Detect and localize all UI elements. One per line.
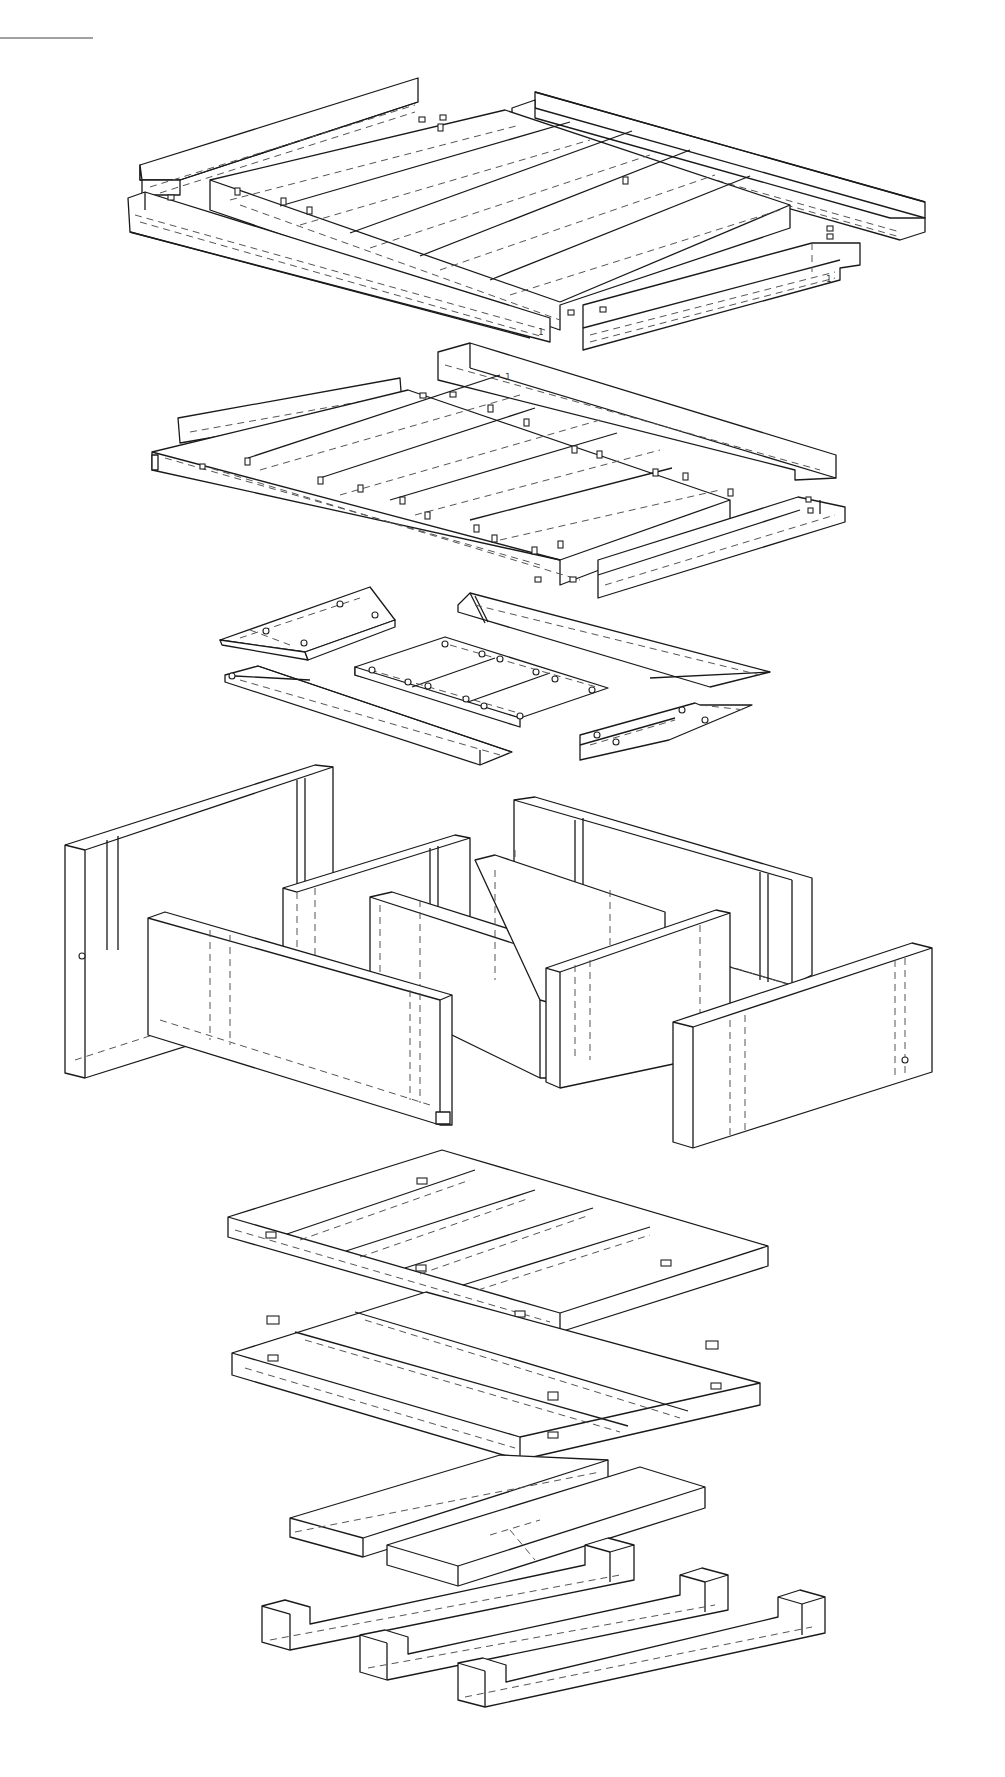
part-mark: 1: [505, 372, 510, 382]
roof-assembly: 1 1: [128, 78, 925, 350]
part-mark: 1: [538, 327, 543, 337]
loose-connector: [706, 1341, 718, 1349]
loose-connector: [267, 1316, 279, 1324]
floor-assembly: [228, 1150, 768, 1460]
floor-lower-panel: [232, 1292, 760, 1460]
bracket-left-upper: [220, 587, 395, 660]
floor-upper-panel: [228, 1150, 768, 1332]
base-assembly: [262, 1455, 825, 1707]
upper-frame-assembly: 1: [152, 343, 845, 598]
shelf-parts: [220, 587, 770, 765]
part-mark: 1: [826, 274, 831, 284]
drawing-canvas: 1 1: [0, 0, 1005, 1777]
bracket-right-lower: [580, 703, 752, 760]
wall-panels: [65, 765, 932, 1148]
exploded-assembly-drawing: 1 1: [0, 0, 1005, 1777]
